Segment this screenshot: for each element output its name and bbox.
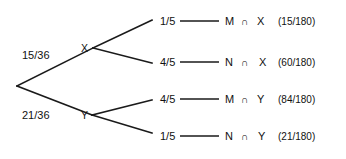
probability-label-x: 15/36 — [22, 49, 50, 61]
probability-label-ny: 1/5 — [160, 130, 175, 142]
intersection-icon-mx: ∩ — [241, 16, 248, 27]
intersection-icon-nx: ∩ — [241, 57, 248, 68]
outcome-first-ny: N — [225, 130, 233, 142]
outcome-second-nx: X — [259, 56, 267, 68]
leaf-row-ny: 1/5 N ∩ Y (21/180) — [160, 130, 315, 142]
result-label-my: (84/180) — [278, 94, 315, 105]
probability-label-mx: 1/5 — [160, 15, 175, 27]
probability-label-my: 4/5 — [160, 93, 175, 105]
result-label-mx: (15/180) — [278, 16, 315, 27]
leaf-row-nx: 4/5 N ∩ X (60/180) — [160, 56, 315, 68]
leaf-row-my: 4/5 M ∩ Y (84/180) — [160, 93, 315, 105]
outcome-second-mx: X — [257, 15, 265, 27]
branch-x-to-nx — [93, 48, 152, 63]
branch-y-to-my — [92, 100, 152, 115]
probability-label-y: 21/36 — [22, 109, 50, 121]
outcome-first-mx: M — [225, 15, 234, 27]
node-label-y: Y — [81, 109, 88, 121]
outcome-first-my: M — [225, 93, 234, 105]
intersection-icon-my: ∩ — [241, 94, 248, 105]
node-label-x: X — [81, 42, 88, 54]
outcome-first-nx: N — [225, 56, 233, 68]
outcome-second-my: Y — [257, 93, 265, 105]
result-label-ny: (21/180) — [278, 131, 315, 142]
branch-y-to-ny — [92, 115, 152, 133]
result-label-nx: (60/180) — [278, 57, 315, 68]
outcome-second-ny: Y — [258, 130, 266, 142]
probability-tree-diagram: 15/36 21/36 X Y 1/5 M ∩ X (15/180) 4/5 N… — [0, 0, 346, 159]
probability-label-nx: 4/5 — [160, 56, 175, 68]
intersection-icon-ny: ∩ — [241, 131, 248, 142]
branch-x-to-mx — [93, 20, 152, 48]
leaf-row-mx: 1/5 M ∩ X (15/180) — [160, 15, 315, 27]
